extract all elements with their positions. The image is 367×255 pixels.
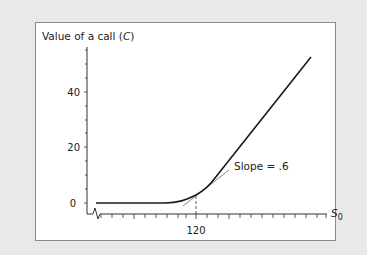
y-tick-40: 40 (67, 87, 80, 98)
x-axis-ticks (101, 214, 326, 219)
call-value-chart: Value of a call (C) 0 20 40 (0, 0, 367, 255)
x-tick-120: 120 (186, 225, 205, 236)
slope-annotation: Slope = .6 (234, 160, 289, 172)
y-tick-0: 0 (70, 198, 76, 209)
x-axis-title: S0 (331, 207, 343, 222)
call-value-curve (96, 57, 311, 203)
y-tick-20: 20 (67, 142, 80, 153)
y-axis-title: Value of a call (C) (42, 30, 134, 42)
